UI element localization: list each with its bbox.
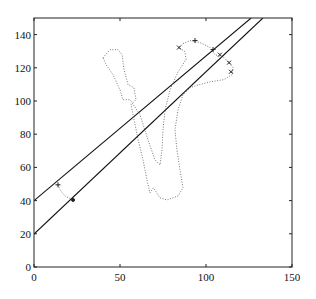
y-tick-label: 0	[26, 261, 32, 273]
marker-plus	[192, 38, 197, 43]
y-tick-label: 40	[20, 195, 32, 207]
marker-dot	[72, 198, 75, 201]
marker-cross	[229, 70, 233, 74]
marker-cross	[227, 61, 231, 65]
x-tick-label: 0	[31, 271, 37, 283]
x-tick-label: 150	[284, 271, 301, 283]
y-tick-label: 100	[15, 95, 32, 107]
marker-plus	[55, 182, 60, 187]
marker-cross	[218, 53, 222, 57]
line-lower-series	[34, 18, 263, 234]
y-tick-label: 140	[15, 29, 32, 41]
marker-cross	[177, 46, 181, 50]
chart: 050100150020406080100120140	[0, 0, 316, 299]
marker-layer	[55, 38, 232, 201]
y-tick-label: 120	[15, 62, 32, 74]
x-tick-label: 100	[198, 271, 215, 283]
axes-box	[34, 18, 292, 267]
axes: 050100150020406080100120140	[15, 18, 301, 283]
line-upper-series	[34, 18, 251, 201]
x-tick-label: 50	[115, 271, 127, 283]
y-tick-label: 80	[20, 128, 32, 140]
series-layer	[34, 18, 263, 234]
y-tick-label: 20	[20, 228, 32, 240]
contour-hook-series	[58, 185, 73, 200]
y-tick-label: 60	[20, 161, 32, 173]
